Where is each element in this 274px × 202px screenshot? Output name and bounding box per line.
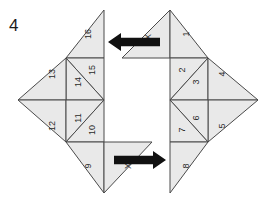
left-half-figure: 161514131211109X xyxy=(18,10,152,193)
figure-root: 4 161514131211109X X12345678 xyxy=(0,0,274,202)
piece-label-p10: 10 xyxy=(87,125,97,135)
piece-label-p4: 4 xyxy=(217,71,227,76)
piece-label-p8: 8 xyxy=(181,163,191,168)
piece-label-p6: 6 xyxy=(191,115,201,120)
piece-label-p15: 15 xyxy=(87,65,97,75)
right-half-figure: X12345678 xyxy=(122,10,258,193)
piece-label-p11: 11 xyxy=(73,113,83,122)
piece-label-p14: 14 xyxy=(73,77,83,87)
piece-label-p2: 2 xyxy=(177,67,187,72)
piece-label-p1: 1 xyxy=(181,31,191,36)
tangram-piece-p12 xyxy=(18,100,66,142)
piece-label-p9: 9 xyxy=(83,163,93,168)
tangram-diagram: 161514131211109X X12345678 xyxy=(0,0,274,202)
piece-label-p3: 3 xyxy=(191,79,201,84)
piece-label-p16: 16 xyxy=(83,29,93,39)
piece-label-p12: 12 xyxy=(47,121,57,131)
piece-label-p5: 5 xyxy=(217,123,227,128)
tangram-piece-p5 xyxy=(208,100,258,142)
tangram-piece-p4 xyxy=(208,58,258,100)
piece-label-p13: 13 xyxy=(47,69,57,79)
tangram-piece-p13 xyxy=(18,58,66,100)
piece-label-p7: 7 xyxy=(177,127,187,132)
